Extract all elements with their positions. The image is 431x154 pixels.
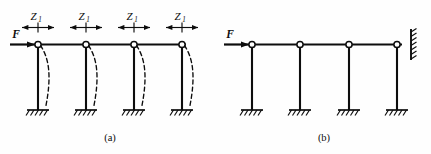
support-a-2 bbox=[74, 110, 97, 116]
dim-label-z1-sub-4: 1 bbox=[182, 16, 186, 24]
deflection-curve-a-2 bbox=[89, 46, 98, 109]
joint-b-3 bbox=[346, 41, 352, 47]
joint-a-2 bbox=[83, 41, 89, 47]
dimension-marker-4: Z 1 bbox=[166, 10, 198, 33]
support-a-1 bbox=[26, 110, 49, 116]
joint-b-1 bbox=[249, 41, 255, 47]
dim-label-z1-sub-1: 1 bbox=[38, 16, 42, 24]
dimension-marker-3: Z 1 bbox=[118, 10, 150, 33]
caption-panel-b: (b) bbox=[318, 132, 331, 144]
panel-a: Z 1 Z 1 Z 1 bbox=[10, 10, 198, 145]
caption-panel-a: (a) bbox=[104, 132, 116, 144]
dim-label-z1-sub-2: 1 bbox=[86, 16, 90, 24]
force-indicator-b: F bbox=[224, 28, 249, 45]
dim-label-z1-2: Z bbox=[78, 10, 85, 22]
support-a-3 bbox=[122, 110, 145, 116]
joint-b-4 bbox=[394, 41, 400, 47]
joint-b-2 bbox=[297, 41, 303, 47]
support-b-2 bbox=[288, 110, 311, 116]
joint-a-4 bbox=[179, 41, 185, 47]
deflection-curve-a-1 bbox=[41, 46, 50, 109]
joint-a-1 bbox=[35, 41, 41, 47]
dim-label-z1-1: Z bbox=[30, 10, 37, 22]
dimension-group-a: Z 1 Z 1 Z 1 bbox=[22, 10, 198, 33]
dimension-marker-2: Z 1 bbox=[70, 10, 102, 33]
force-label-b: F bbox=[225, 28, 234, 40]
joint-a-3 bbox=[131, 41, 137, 47]
support-b-1 bbox=[240, 110, 263, 116]
support-a-4 bbox=[170, 110, 193, 116]
deflection-curve-a-4 bbox=[185, 46, 194, 109]
force-indicator-a: F bbox=[10, 28, 35, 45]
deflection-curve-a-3 bbox=[137, 46, 146, 109]
dim-label-z1-4: Z bbox=[174, 10, 181, 22]
dim-label-z1-sub-3: 1 bbox=[134, 16, 138, 24]
figure-canvas: Z 1 Z 1 Z 1 bbox=[0, 0, 431, 154]
support-b-4 bbox=[385, 110, 408, 116]
dim-label-z1-3: Z bbox=[126, 10, 133, 22]
force-label-a: F bbox=[11, 28, 20, 40]
panel-b: F bbox=[224, 28, 417, 144]
support-b-3 bbox=[337, 110, 360, 116]
wall-support-b bbox=[411, 29, 417, 61]
structural-frame-figure: Z 1 Z 1 Z 1 bbox=[0, 0, 431, 154]
dimension-marker-1: Z 1 bbox=[22, 10, 54, 33]
